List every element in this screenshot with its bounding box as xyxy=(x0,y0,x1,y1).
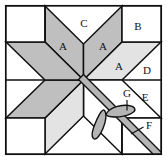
label-B: B xyxy=(134,20,141,32)
piece-corner-top-left xyxy=(6,6,45,42)
label-C: C xyxy=(80,17,87,29)
figure-caption xyxy=(0,156,167,168)
quilt-block-figure: A A A C B D E F G xyxy=(0,0,167,168)
label-G: G xyxy=(123,87,131,99)
label-D: D xyxy=(143,64,151,76)
label-E: E xyxy=(142,91,149,103)
label-A-top-left: A xyxy=(59,40,67,52)
label-F: F xyxy=(146,119,152,131)
quilt-block-diagram: A A A C B D E F G xyxy=(0,0,167,168)
label-A-right: A xyxy=(115,60,123,72)
label-A-top-right: A xyxy=(99,40,107,52)
piece-corner-bottom-left xyxy=(6,118,45,154)
